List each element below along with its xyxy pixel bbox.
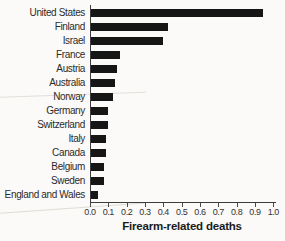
category-label-switzerland: Switzerland [0,120,85,130]
bar-austria [91,65,117,73]
bar-finland [91,23,168,31]
category-label-sweden: Sweden [0,176,85,186]
category-label-australia: Australia [0,78,85,88]
category-label-canada: Canada [0,148,85,158]
x-tick-label: 0.1 [98,207,118,217]
chart-row: Belgium [0,163,285,171]
category-label-israel: Israel [0,36,85,46]
category-label-england-and-wales: England and Wales [0,190,85,200]
chart-row: France [0,51,285,59]
x-tick-label: 1.0 [263,207,283,217]
bar-italy [91,135,106,143]
x-tick-label: 0.0 [80,207,100,217]
chart-row: Sweden [0,177,285,185]
y-axis-line [90,5,91,202]
bar-belgium [91,163,104,171]
chart-row: England and Wales [0,191,285,199]
category-label-germany: Germany [0,106,85,116]
chart-row: Australia [0,79,285,87]
x-tick-label: 0.9 [245,207,265,217]
x-tick-label: 0.5 [172,207,192,217]
bar-israel [91,37,163,45]
category-label-united-states: United States [0,8,85,18]
bar-england-and-wales [91,191,98,199]
bar-sweden [91,177,104,185]
category-label-finland: Finland [0,22,85,32]
chart-row: Italy [0,135,285,143]
bar-norway [91,93,113,101]
x-axis-line [90,202,276,203]
x-tick-label: 0.3 [135,207,155,217]
category-label-france: France [0,50,85,60]
chart-row: Finland [0,23,285,31]
x-tick-label: 0.4 [153,207,173,217]
x-tick-label: 0.2 [117,207,137,217]
bar-germany [91,107,108,115]
category-label-norway: Norway [0,92,85,102]
chart-row: Austria [0,65,285,73]
bar-france [91,51,120,59]
chart-row: Switzerland [0,121,285,129]
bar-switzerland [91,121,108,129]
chart-row: United States [0,9,285,17]
category-label-italy: Italy [0,134,85,144]
chart-row: Norway [0,93,285,101]
category-label-austria: Austria [0,64,85,74]
bar-australia [91,79,115,87]
bar-canada [91,149,106,157]
x-axis-title: Firearm-related deaths [90,220,274,232]
chart-row: Canada [0,149,285,157]
bar-united-states [91,9,263,17]
bar-chart-firearm-deaths: United StatesFinlandIsraelFranceAustriaA… [0,0,285,241]
x-tick-label: 0.8 [227,207,247,217]
chart-row: Germany [0,107,285,115]
chart-row: Israel [0,37,285,45]
category-label-belgium: Belgium [0,162,85,172]
x-tick-label: 0.7 [208,207,228,217]
x-tick-label: 0.6 [190,207,210,217]
